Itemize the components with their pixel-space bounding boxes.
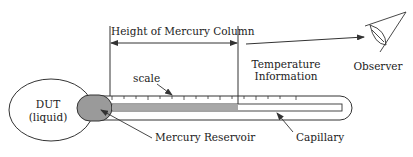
temperature-information: Temperature Information [246,37,364,82]
observer-label: Observer [353,60,403,72]
thermometer [77,95,352,121]
mercury-column [112,105,238,111]
scale-pointer [157,84,172,95]
capillary-label: Capillary [296,131,344,143]
scale-label: scale [133,72,160,84]
information-label: Information [254,70,317,82]
height-label: Height of Mercury Column [111,25,255,37]
reservoir-label: Mercury Reservoir [155,131,256,143]
mercury-reservoir [77,95,112,121]
thermometer-diagram: DUT (liquid) [0,0,413,157]
height-dimension: Height of Mercury Column [110,25,255,104]
dut-sublabel: (liquid) [29,111,67,123]
dut-label: DUT [36,98,60,110]
temperature-label: Temperature [252,58,321,70]
observer-eye-icon [365,12,406,52]
